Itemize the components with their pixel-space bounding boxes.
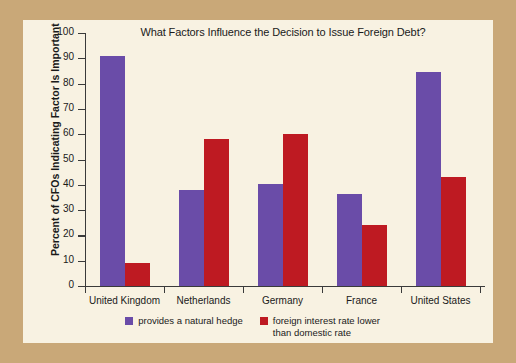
x-axis-tick: [164, 287, 165, 293]
x-axis-label-netherlands: Netherlands: [177, 295, 231, 306]
y-axis-tick-label: 80: [63, 77, 78, 88]
bar-united-states-series1: [441, 177, 466, 286]
plot-area: [85, 33, 480, 286]
y-axis-tick-label: 10: [63, 254, 78, 265]
x-axis-label-united-states: United States: [410, 295, 470, 306]
y-axis-tick-label: 100: [57, 26, 78, 37]
legend-label-0: provides a natural hedge: [138, 315, 243, 327]
legend-swatch-icon-1: [260, 317, 268, 325]
x-axis-tick: [243, 287, 244, 293]
chart-figure-panel: What Factors Influence the Decision to I…: [23, 20, 493, 343]
x-axis-tick: [322, 287, 323, 293]
legend-swatch-icon-0: [125, 317, 133, 325]
x-axis-label-united-kingdom: United Kingdom: [89, 295, 160, 306]
x-axis-label-france: France: [346, 295, 377, 306]
y-axis-tick-label: 50: [63, 153, 78, 164]
y-axis-tick-label: 60: [63, 127, 78, 138]
bar-united-kingdom-series0: [100, 56, 125, 286]
y-axis-tick-label: 70: [63, 102, 78, 113]
x-axis-label-germany: Germany: [262, 295, 303, 306]
bar-netherlands-series0: [179, 190, 204, 286]
bar-germany-series1: [283, 134, 308, 286]
x-axis-line: [85, 286, 485, 287]
bar-germany-series0: [258, 184, 283, 286]
x-axis-tick: [85, 287, 86, 293]
chart-legend: provides a natural hedgeforeign interest…: [23, 315, 493, 338]
y-axis-tick-label: 90: [63, 51, 78, 62]
bar-france-series1: [362, 225, 387, 286]
legend-entry-1: foreign interest rate lower than domesti…: [260, 315, 391, 338]
bar-netherlands-series1: [204, 139, 229, 286]
x-axis-tick: [480, 287, 481, 293]
x-axis-tick: [401, 287, 402, 293]
bar-united-kingdom-series1: [125, 263, 150, 286]
bar-france-series0: [337, 194, 362, 286]
legend-label-1: foreign interest rate lower than domesti…: [273, 315, 391, 338]
bar-united-states-series0: [416, 72, 441, 286]
y-axis-tick-label: 0: [68, 279, 78, 290]
y-axis-tick-label: 40: [63, 178, 78, 189]
y-axis-tick-label: 20: [63, 228, 78, 239]
legend-entry-0: provides a natural hedge: [125, 315, 243, 327]
y-axis-tick-label: 30: [63, 203, 78, 214]
y-axis-title: Percent of CFOs Indicating Factor Is Imp…: [49, 36, 61, 256]
